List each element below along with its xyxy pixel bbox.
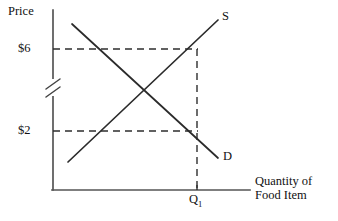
demand-curve-label: D	[223, 150, 232, 164]
q1-base: Q	[189, 192, 198, 206]
y-axis-tick-label-2: $2	[18, 124, 31, 138]
q1-subscript: 1	[198, 199, 202, 209]
supply-demand-diagram: Price $6 $2 S D Q1 Quantity of Food Item	[0, 0, 338, 221]
x-axis-tick-label-q1: Q1	[189, 193, 202, 209]
supply-curve-label: S	[222, 10, 229, 24]
y-axis-title: Price	[8, 5, 34, 19]
axis-break-icon	[46, 79, 60, 97]
x-axis-title: Quantity of Food Item	[255, 175, 312, 202]
x-axis-title-line2: Food Item	[255, 189, 312, 203]
x-axis-title-line1: Quantity of	[255, 175, 312, 189]
y-axis-tick-label-6: $6	[18, 42, 31, 56]
